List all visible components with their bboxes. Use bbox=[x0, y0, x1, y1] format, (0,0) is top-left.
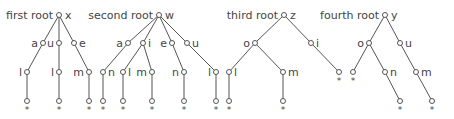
tree-node bbox=[414, 70, 419, 75]
tree-node bbox=[57, 70, 62, 75]
node-label: m bbox=[421, 66, 432, 79]
leaf-node bbox=[351, 70, 356, 75]
node-label: m bbox=[136, 66, 147, 79]
node-label: l bbox=[128, 66, 131, 79]
node-label: a bbox=[31, 37, 38, 50]
node-label: l bbox=[234, 66, 237, 79]
leaf-node bbox=[227, 99, 232, 104]
tree-forest-diagram: first rootxauellm***second rootwaieunlmn… bbox=[0, 0, 454, 119]
leaf-node bbox=[281, 99, 286, 104]
tree-edge bbox=[229, 43, 255, 72]
end-marker: * bbox=[430, 105, 435, 115]
end-marker: * bbox=[87, 105, 92, 115]
leaf-node bbox=[121, 99, 126, 104]
root-label: z bbox=[290, 9, 296, 22]
tree-node bbox=[87, 70, 92, 75]
leaf-node bbox=[214, 99, 219, 104]
tree-node bbox=[41, 41, 46, 46]
tree-node bbox=[185, 41, 190, 46]
end-marker: * bbox=[281, 105, 286, 115]
tree-node bbox=[126, 41, 131, 46]
node-label: u bbox=[192, 37, 199, 50]
end-marker: * bbox=[227, 105, 232, 115]
tree-edge bbox=[284, 15, 311, 43]
root-node bbox=[57, 13, 62, 18]
root-node bbox=[383, 13, 388, 18]
node-label: l bbox=[208, 66, 211, 79]
end-marker: * bbox=[57, 105, 62, 115]
end-marker: * bbox=[351, 76, 356, 86]
leaf-node bbox=[337, 70, 342, 75]
root-node bbox=[282, 13, 287, 18]
node-label: o bbox=[243, 37, 250, 50]
end-marker: * bbox=[25, 105, 30, 115]
tree-node bbox=[281, 70, 286, 75]
tree-node bbox=[253, 41, 258, 46]
leaf-node bbox=[398, 99, 403, 104]
node-label: l bbox=[51, 66, 54, 79]
leaf-node bbox=[150, 99, 155, 104]
tree-title: third root bbox=[227, 9, 279, 22]
leaf-node bbox=[25, 99, 30, 104]
tree-node bbox=[214, 70, 219, 75]
end-marker: * bbox=[121, 105, 126, 115]
node-label: l bbox=[19, 66, 22, 79]
tree-edge bbox=[369, 43, 385, 72]
tree-node bbox=[25, 70, 30, 75]
tree-node bbox=[170, 41, 175, 46]
tree-edges bbox=[27, 15, 432, 101]
tree-node bbox=[57, 41, 62, 46]
node-label: e bbox=[160, 37, 167, 50]
tree-node bbox=[141, 41, 146, 46]
tree-node bbox=[72, 41, 77, 46]
node-label: n bbox=[108, 66, 115, 79]
end-marker: * bbox=[337, 76, 342, 86]
end-marker: * bbox=[214, 105, 219, 115]
root-label: y bbox=[391, 9, 398, 22]
leaf-node bbox=[101, 99, 106, 104]
tree-node bbox=[101, 70, 106, 75]
tree-node bbox=[367, 41, 372, 46]
root-node bbox=[157, 13, 162, 18]
tree-labels: first rootxauellm***second rootwaieunlmn… bbox=[6, 9, 435, 115]
leaf-node bbox=[57, 99, 62, 104]
tree-node bbox=[121, 70, 126, 75]
node-label: m bbox=[73, 66, 84, 79]
tree-title: second root bbox=[88, 9, 153, 22]
node-label: n bbox=[172, 66, 179, 79]
tree-title: fourth root bbox=[320, 9, 380, 22]
node-label: n bbox=[390, 66, 397, 79]
end-marker: * bbox=[182, 105, 187, 115]
tree-edge bbox=[255, 43, 283, 72]
tree-node bbox=[182, 70, 187, 75]
tree-node bbox=[150, 70, 155, 75]
tree-node bbox=[398, 41, 403, 46]
node-label: u bbox=[405, 37, 412, 50]
root-label: x bbox=[65, 9, 72, 22]
node-label: a bbox=[116, 37, 123, 50]
leaf-node bbox=[430, 99, 435, 104]
tree-node bbox=[227, 70, 232, 75]
leaf-node bbox=[182, 99, 187, 104]
node-label: m bbox=[288, 66, 299, 79]
tree-node bbox=[309, 41, 314, 46]
tree-title: first root bbox=[6, 9, 54, 22]
node-label: i bbox=[316, 37, 319, 50]
node-label: i bbox=[148, 37, 151, 50]
root-label: w bbox=[165, 9, 174, 22]
node-label: u bbox=[47, 37, 54, 50]
end-marker: * bbox=[398, 105, 403, 115]
end-marker: * bbox=[101, 105, 106, 115]
end-marker: * bbox=[150, 105, 155, 115]
tree-node bbox=[383, 70, 388, 75]
leaf-node bbox=[87, 99, 92, 104]
node-label: o bbox=[357, 37, 364, 50]
node-label: e bbox=[79, 37, 86, 50]
